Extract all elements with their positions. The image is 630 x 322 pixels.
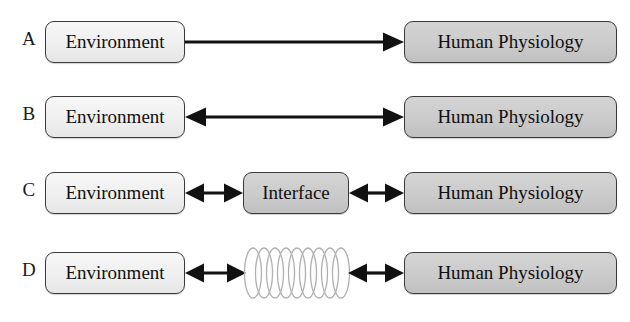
coil-loops (243, 245, 351, 301)
two-way-arrow-coil-physiology (348, 252, 404, 294)
row-label-b: B (16, 101, 42, 127)
arrow-right-icon (185, 21, 404, 63)
row-label-c: C (16, 177, 42, 203)
diagram-row-c: C Environment Interface Human Physiology (0, 164, 630, 220)
diagram-row-d: D Environment (0, 244, 630, 300)
node-environment-b: Environment (45, 96, 185, 138)
node-human-physiology-a: Human Physiology (404, 21, 617, 63)
diagram-row-b: B Environment Human Physiology (0, 88, 630, 144)
node-human-physiology-d: Human Physiology (404, 252, 617, 294)
diagram-row-a: A Environment Human Physiology (0, 13, 630, 69)
row-label-d: D (16, 257, 42, 283)
two-way-arrow-environment-physiology (185, 96, 404, 138)
arrow-both-icon (185, 172, 243, 214)
node-human-physiology-c: Human Physiology (404, 172, 617, 214)
node-environment-d: Environment (45, 252, 185, 294)
arrow-both-icon (185, 96, 404, 138)
arrow-both-icon (349, 172, 404, 214)
node-environment-c: Environment (45, 172, 185, 214)
arrow-both-icon (348, 252, 404, 294)
row-label-a: A (16, 26, 42, 52)
figure-diagram: A Environment Human Physiology B Environ… (0, 0, 630, 322)
node-interface-c: Interface (243, 172, 349, 214)
two-way-arrow-environment-interface (185, 172, 243, 214)
one-way-arrow-environment-to-physiology (185, 21, 404, 63)
two-way-arrow-environment-coil (185, 252, 246, 294)
two-way-arrow-interface-physiology (349, 172, 404, 214)
arrow-both-icon (185, 252, 246, 294)
node-environment-a: Environment (45, 21, 185, 63)
coil-spring-icon (243, 245, 351, 301)
node-human-physiology-b: Human Physiology (404, 96, 617, 138)
